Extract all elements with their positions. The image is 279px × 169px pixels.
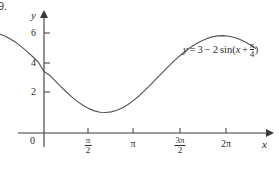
- equation-phase-fraction: π 4: [250, 41, 254, 59]
- y-tick-label-4: 4: [22, 58, 36, 68]
- equation-annotation: y = 3 − 2 sin( x + π 4 ): [183, 41, 258, 59]
- equation-equals-sign: =: [190, 45, 196, 56]
- y-axis-ticks: [44, 33, 50, 92]
- equation-minus-sign: −: [205, 45, 211, 56]
- equation-constant: 3: [198, 45, 203, 56]
- x-tick-label-pi-over-2: π 2: [85, 136, 92, 156]
- x-tick-label-3pi-over-2: 3π 2: [174, 136, 185, 156]
- trig-graph-figure: 9. y x 6 4 2 0 π 2 π 3π 2 2π y = 3 − 2 s…: [0, 0, 279, 169]
- equation-lhs: y: [183, 45, 188, 56]
- equation-plus-sign: +: [242, 45, 248, 56]
- y-axis-label: y: [31, 10, 36, 21]
- problem-number: 9.: [0, 1, 7, 12]
- y-tick-label-2: 2: [22, 87, 36, 97]
- x-tick-label-0: 0: [30, 136, 35, 146]
- x-axis-ticks: [88, 128, 226, 133]
- x-axis-label: x: [262, 139, 267, 150]
- x-tick-label-2pi: 2π: [221, 139, 231, 149]
- fraction-denominator: 4: [250, 50, 254, 59]
- y-axis: [40, 10, 48, 147]
- fraction-pi-over-2: π 2: [85, 136, 92, 156]
- equation-variable: x: [236, 45, 241, 56]
- fraction-numerator: 3π: [174, 136, 185, 145]
- equation-amplitude: 2: [213, 45, 218, 56]
- x-axis: [18, 129, 274, 137]
- fraction-3pi-over-2: 3π 2: [174, 136, 185, 156]
- y-axis-arrowhead: [40, 10, 48, 18]
- graph-canvas: [0, 0, 279, 169]
- fraction-numerator: π: [85, 136, 92, 145]
- fraction-denominator: 2: [174, 146, 185, 155]
- y-tick-label-6: 6: [22, 28, 36, 38]
- x-tick-label-pi: π: [130, 139, 135, 149]
- fraction-numerator: π: [250, 41, 254, 50]
- x-axis-arrowhead: [266, 129, 274, 137]
- fraction-denominator: 2: [85, 146, 92, 155]
- equation-close-paren: ): [255, 45, 259, 56]
- equation-sin-open: sin(: [220, 45, 236, 56]
